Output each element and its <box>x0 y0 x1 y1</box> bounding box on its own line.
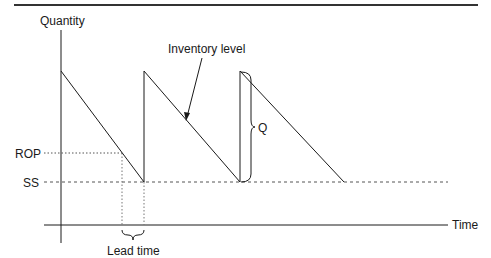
inventory-level-line <box>61 71 344 182</box>
inventory-level-arrow <box>187 58 202 117</box>
rop-label: ROP <box>15 147 41 161</box>
inventory-diagram: Quantity Time ROP SS Inventory level Q L… <box>0 0 491 258</box>
inventory-level-label: Inventory level <box>168 42 245 56</box>
ss-label: SS <box>23 176 39 190</box>
q-brace <box>241 72 255 182</box>
y-axis-label: Quantity <box>40 14 85 28</box>
q-label: Q <box>258 121 267 135</box>
x-axis-label: Time <box>452 218 479 232</box>
lead-time-label: Lead time <box>107 244 160 258</box>
lead-time-brace <box>122 230 144 240</box>
arrow-head-icon <box>184 112 190 121</box>
